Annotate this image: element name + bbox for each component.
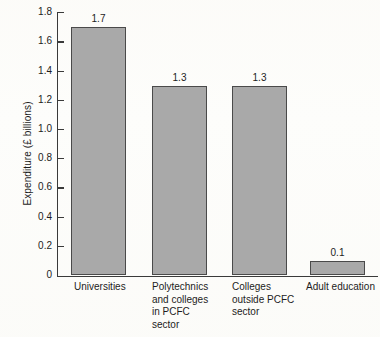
y-axis-tick-label: 1.2 bbox=[0, 95, 52, 105]
y-axis-tick-label: 1.8 bbox=[0, 7, 52, 17]
bar bbox=[232, 86, 287, 276]
y-axis-tick-mark bbox=[58, 129, 64, 130]
bar bbox=[152, 86, 207, 276]
y-axis-tick-mark bbox=[58, 100, 64, 101]
y-axis-tick-label-text: 0 bbox=[6, 270, 52, 280]
y-axis-tick-mark bbox=[58, 187, 64, 188]
x-axis-category-label: Adult education bbox=[306, 281, 380, 294]
y-axis-tick-mark bbox=[58, 41, 64, 42]
bar bbox=[310, 261, 365, 276]
y-axis-tick-label-text: 0.6 bbox=[6, 182, 52, 192]
y-axis-tick-label: 1.0 bbox=[0, 124, 52, 134]
y-axis-tick-mark bbox=[58, 71, 64, 72]
y-axis-tick-label-text: 0.2 bbox=[6, 241, 52, 251]
x-axis-category-label: Polytechnics and colleges in PCFC sector bbox=[152, 281, 228, 331]
y-axis-tick-mark bbox=[58, 246, 64, 247]
bar-value-label: 1.3 bbox=[142, 72, 217, 83]
bar-chart: Expenditure (£ billions) 00.20.40.60.81.… bbox=[0, 0, 380, 337]
y-axis-tick-label-text: 0.8 bbox=[6, 153, 52, 163]
bar-value-label: 0.1 bbox=[300, 247, 375, 258]
y-axis-tick-label: 1.4 bbox=[0, 66, 52, 76]
y-axis-tick-label-text: 0.4 bbox=[6, 212, 52, 222]
x-axis-category-label: Universities bbox=[74, 281, 150, 294]
y-axis-tick-label-text: 1.4 bbox=[6, 66, 52, 76]
y-axis-tick-label: 1.6 bbox=[0, 36, 52, 46]
bar-value-label: 1.3 bbox=[222, 72, 297, 83]
y-axis-tick-label-text: 1.2 bbox=[6, 95, 52, 105]
y-axis-tick-label: 0.6 bbox=[0, 182, 52, 192]
bar bbox=[71, 27, 126, 275]
y-axis-tick-label-text: 1.0 bbox=[6, 124, 52, 134]
y-axis-tick-label: 0.4 bbox=[0, 212, 52, 222]
y-axis-tick-label-text: 1.8 bbox=[6, 7, 52, 17]
x-axis-line bbox=[57, 276, 378, 277]
x-axis-category-label: Colleges outside PCFC sector bbox=[232, 281, 308, 319]
y-axis-tick-label: 0 bbox=[0, 270, 52, 280]
bar-value-label: 1.7 bbox=[61, 13, 136, 24]
y-axis-tick-label: 0.8 bbox=[0, 153, 52, 163]
y-axis-tick-mark bbox=[58, 158, 64, 159]
y-axis-tick-label-text: 1.6 bbox=[6, 36, 52, 46]
y-axis-tick-label: 0.2 bbox=[0, 241, 52, 251]
y-axis-tick-mark bbox=[58, 217, 64, 218]
y-axis-line bbox=[57, 12, 58, 277]
